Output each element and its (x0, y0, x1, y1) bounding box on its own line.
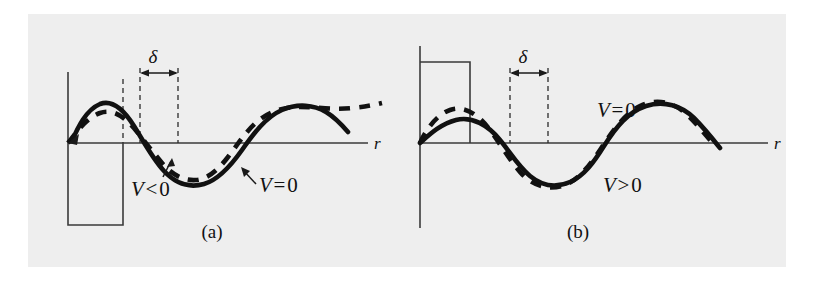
panel-a-perturbed-label: V < 0 (131, 177, 170, 201)
panel-b-axis-label: r (774, 134, 781, 153)
panel-a-free-label: V = 0 (259, 173, 298, 197)
panel-b-perturbed-label: V > 0 (603, 173, 642, 197)
figure-root: r δ V < 0 V = 0 (0, 0, 814, 281)
panel-b-free-label: V = 0 (597, 98, 636, 122)
panel-b-delta-label: δ (519, 46, 529, 67)
panel-b-caption: (b) (567, 221, 589, 243)
panel-a-axis-label: r (374, 134, 381, 153)
panel-a-delta-label: δ (149, 46, 159, 67)
panel-a-caption: (a) (201, 221, 222, 243)
scattering-phase-shift-figure: r δ V < 0 V = 0 (0, 0, 814, 281)
